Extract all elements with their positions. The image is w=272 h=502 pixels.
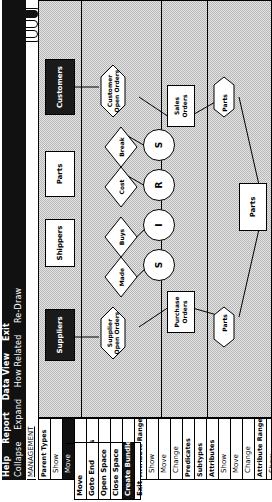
popup-item-goto-end[interactable]: Goto End xyxy=(87,443,99,499)
entity-sales-orders[interactable]: Sales Orders xyxy=(167,85,195,127)
menu-exit[interactable]: Exit xyxy=(2,323,11,341)
panel-item-show[interactable]: Show xyxy=(267,419,272,479)
menu-bar-primary: Help Report Data View Exit xyxy=(2,0,14,480)
panel-header-parent-types: Parent Types xyxy=(39,419,51,479)
panel-header-attributes-2: Attributes xyxy=(207,419,219,479)
popup-connector xyxy=(66,443,74,444)
popup-menu: Move Goto End Open Space Close Space Cre… xyxy=(74,442,141,500)
panel-item-move[interactable]: Move xyxy=(231,419,243,479)
popup-item-move[interactable]: Move xyxy=(75,443,87,499)
menu-redraw[interactable]: Re-Draw xyxy=(14,288,23,323)
hex-parts-right[interactable]: Parts xyxy=(218,87,230,119)
entity-suppliers[interactable]: Suppliers xyxy=(45,309,75,361)
popup-item-create-bundle[interactable]: Create Bundle xyxy=(123,443,135,499)
diamond-made[interactable]: Made xyxy=(115,263,127,291)
panel-item-change[interactable]: Change xyxy=(171,419,183,479)
menu-collapse[interactable]: Collapse xyxy=(14,441,23,477)
mode-label: MANAGEMENT xyxy=(27,420,36,480)
app-window: Help Report Data View Exit Collapse Expa… xyxy=(0,0,272,502)
popup-item-exit[interactable]: Exit xyxy=(135,443,146,499)
diamond-buys[interactable]: Buys xyxy=(115,223,127,251)
diamond-break[interactable]: Break xyxy=(115,133,127,161)
panel-item-show[interactable]: Show xyxy=(51,419,63,479)
hex-supplier-open-orders[interactable]: Supplier Open Orders xyxy=(101,311,125,355)
circle-s-2[interactable]: S xyxy=(143,129,175,161)
menu-how-related[interactable]: How Related xyxy=(14,335,23,388)
circle-s-1[interactable]: S xyxy=(143,249,175,281)
menu-data-view[interactable]: Data View xyxy=(2,353,11,400)
menu-report[interactable]: Report xyxy=(2,412,11,444)
menu-help[interactable]: Help xyxy=(2,456,11,477)
popup-item-open-space[interactable]: Open Space xyxy=(99,443,111,499)
panel-item-show[interactable]: Show xyxy=(147,419,159,479)
panel-item-move[interactable]: Move xyxy=(159,419,171,479)
panel-header-attribute-ranges-2: Attribute Ranges xyxy=(255,419,267,479)
entity-shippers[interactable]: Shippers xyxy=(45,219,75,267)
panel-header-subtypes: Subtypes xyxy=(195,419,207,479)
hex-customer-open-orders[interactable]: Customer Open Orders xyxy=(101,69,125,113)
panel-item-change[interactable]: Change xyxy=(243,419,255,479)
entity-customers[interactable]: Customers xyxy=(45,59,75,115)
hex-parts-left[interactable]: Parts xyxy=(218,307,230,339)
panel-item-show[interactable]: Show xyxy=(219,419,231,479)
entity-parts-bottom[interactable]: Parts xyxy=(239,183,267,231)
circle-r[interactable]: R xyxy=(143,169,175,201)
diamond-cost[interactable]: Cost xyxy=(115,173,127,201)
diagram-canvas[interactable]: Suppliers Shippers Parts Customers Suppl… xyxy=(38,0,272,418)
panel-header-predicates: Predicates xyxy=(183,419,195,479)
menu-expand[interactable]: Expand xyxy=(14,399,23,430)
entity-parts[interactable]: Parts xyxy=(45,151,75,197)
circle-i[interactable]: I xyxy=(143,209,175,241)
entity-purchase-orders[interactable]: Purchase Orders xyxy=(167,291,195,333)
menu-bar-secondary: Collapse Expand How Related Re-Draw xyxy=(14,0,26,480)
popup-item-close-space[interactable]: Close Space xyxy=(111,443,123,499)
